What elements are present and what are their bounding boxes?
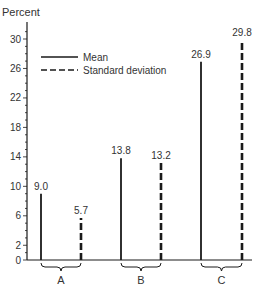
value-label: 26.9	[191, 49, 211, 60]
y-tick-label: 26	[10, 63, 22, 74]
axes: 026101418222630	[10, 22, 252, 266]
value-label: 13.8	[111, 145, 131, 156]
y-tick-label: 6	[15, 210, 21, 221]
y-tick-label: 30	[10, 34, 22, 45]
y-tick-label: 10	[10, 181, 22, 192]
y-tick-label: 14	[10, 151, 22, 162]
category-label-b: B	[137, 274, 144, 286]
y-tick-label: 2	[15, 240, 21, 251]
category-brace	[201, 263, 242, 271]
value-label: 9.0	[34, 181, 48, 192]
y-axis-label: Percent	[2, 6, 40, 18]
legend: MeanStandard deviation	[41, 52, 166, 76]
y-tick-label: 18	[10, 122, 22, 133]
value-label: 13.2	[151, 150, 171, 161]
value-label: 29.8	[232, 27, 252, 38]
category-label-c: C	[218, 274, 226, 286]
category-label-a: A	[57, 274, 65, 286]
x-categories: ABC	[41, 263, 242, 286]
chart: Percent 026101418222630 MeanStandard dev…	[0, 0, 255, 287]
y-tick-label: 22	[10, 92, 22, 103]
value-label: 5.7	[74, 205, 88, 216]
bars: 9.05.713.813.226.929.8	[34, 27, 252, 260]
category-brace	[41, 263, 81, 271]
legend-label-sd: Standard deviation	[83, 65, 166, 76]
category-brace	[121, 263, 161, 271]
legend-label-mean: Mean	[83, 52, 108, 63]
y-tick-label: 0	[15, 255, 21, 266]
